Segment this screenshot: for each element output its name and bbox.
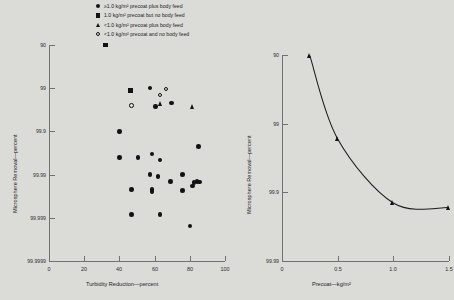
data-point-filled-triangle	[190, 104, 194, 109]
data-point-filled-circle	[196, 144, 201, 149]
data-point-filled-triangle	[335, 136, 339, 141]
fitted-curve	[232, 0, 454, 300]
data-point-filled-circle	[129, 187, 134, 192]
scatter-plot-panel: 909999.999.9999.99999.9999 020406080100 …	[0, 0, 232, 300]
data-point-filled-circle	[158, 158, 163, 163]
data-point-filled-triangle	[158, 101, 162, 106]
y-axis-tick	[50, 45, 55, 46]
data-point-filled-circle	[169, 101, 174, 106]
y-axis-title: Microsphere Removal—percent	[12, 134, 18, 213]
data-point-filled-circle	[197, 180, 202, 185]
y-axis-tick-label: 90	[2, 42, 46, 48]
x-axis-tick-label: 60	[143, 266, 167, 272]
y-axis-tick-label: 99	[2, 85, 46, 91]
y-axis-title: Microsphere Removal—percent	[246, 135, 252, 214]
y-axis-tick	[50, 131, 55, 132]
data-point-open-circle	[129, 103, 134, 108]
x-axis-line	[49, 261, 225, 262]
x-axis-tick	[225, 256, 226, 261]
data-point-filled-circle	[117, 129, 122, 134]
data-point-filled-circle	[136, 155, 141, 160]
data-point-filled-circle	[129, 212, 134, 217]
x-axis-tick	[84, 256, 85, 261]
data-point-filled-circle	[156, 174, 161, 179]
x-axis-tick-label: 40	[107, 266, 131, 272]
data-point-filled-circle	[190, 184, 195, 189]
data-point-filled-circle	[180, 188, 185, 193]
data-point-open-circle	[158, 93, 163, 98]
x-axis-title: Precoat—kg/m²	[312, 281, 351, 287]
y-axis-tick-label: 99.9	[2, 128, 46, 134]
data-point-filled-circle	[148, 86, 153, 91]
line-plot-panel: 909999.999.99 00.51.01.5 Precoat—kg/m² M…	[232, 0, 454, 300]
y-axis-tick	[50, 88, 55, 89]
data-point-filled-circle	[180, 172, 185, 177]
y-axis-tick	[50, 218, 55, 219]
data-point-filled-triangle	[390, 200, 394, 205]
data-point-filled-circle	[158, 212, 163, 217]
x-axis-tick-label: 20	[72, 266, 96, 272]
data-point-filled-circle	[188, 224, 193, 229]
x-axis-tick	[119, 256, 120, 261]
y-axis-tick-label: 99.999	[2, 215, 46, 221]
x-axis-tick	[155, 256, 156, 261]
x-axis-tick	[190, 256, 191, 261]
data-point-filled-circle	[148, 172, 153, 177]
x-axis-tick-label: 0	[37, 266, 61, 272]
data-point-filled-circle	[150, 189, 155, 194]
data-point-filled-circle	[150, 152, 155, 157]
data-point-open-circle	[164, 87, 169, 92]
x-axis-tick-label: 80	[178, 266, 202, 272]
data-point-filled-square	[103, 43, 108, 48]
data-point-filled-triangle	[446, 205, 450, 210]
y-axis-line	[49, 45, 50, 261]
y-axis-tick	[50, 261, 55, 262]
data-point-filled-circle	[168, 179, 173, 184]
y-axis-tick-label: 99.99	[2, 172, 46, 178]
data-point-filled-square	[128, 88, 133, 93]
y-axis-tick-label: 99.9999	[2, 258, 46, 264]
figure-canvas: ≥1.0 kg/m² precoat plus body feed 1.0 kg…	[0, 0, 454, 300]
data-point-filled-triangle	[307, 53, 311, 58]
x-axis-title: Turbidity Reduction—percent	[86, 281, 158, 287]
x-axis-tick	[49, 256, 50, 261]
y-axis-tick	[50, 175, 55, 176]
data-point-filled-circle	[117, 155, 122, 160]
